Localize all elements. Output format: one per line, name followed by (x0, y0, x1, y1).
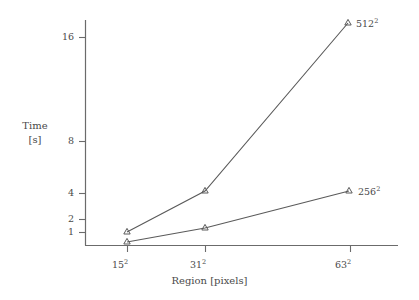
x-tick-label-31-base: 31 (190, 259, 202, 270)
x-tick-label-63: 632 (335, 259, 351, 270)
x-tick-label-31: 312 (190, 259, 206, 270)
series-label-512: 5122 (356, 18, 378, 29)
x-tick-label-63-base: 63 (335, 259, 347, 270)
series-line-256 (127, 191, 349, 242)
x-tick-label-15: 152 (112, 259, 128, 270)
y-axis-title-line1: Time (10, 121, 60, 131)
series-label-512-base: 512 (356, 18, 374, 29)
x-axis-title: Region [pixels] (0, 276, 419, 286)
series-markers-512 (124, 19, 351, 234)
x-tick-label-15-base: 15 (112, 259, 124, 270)
series-label-256-exponent: 2 (376, 185, 380, 193)
y-tick-label-4: 4 (52, 188, 74, 198)
y-tick-label-1: 1 (52, 227, 74, 237)
series-label-256: 2562 (358, 186, 380, 197)
series-label-256-base: 256 (358, 186, 376, 197)
x-tick-label-31-exponent: 2 (202, 258, 206, 266)
series-label-512-exponent: 2 (374, 17, 378, 25)
x-tick-label-15-exponent: 2 (124, 258, 128, 266)
y-tick-label-2: 2 (52, 214, 74, 224)
y-tick-label-16: 16 (52, 32, 74, 42)
series-line-512 (127, 23, 348, 232)
x-tick-label-63-exponent: 2 (347, 258, 351, 266)
y-axis-title-line2: [s] (10, 135, 60, 145)
time-vs-region-line-chart (0, 0, 419, 300)
y-axis-ticks (79, 38, 85, 233)
